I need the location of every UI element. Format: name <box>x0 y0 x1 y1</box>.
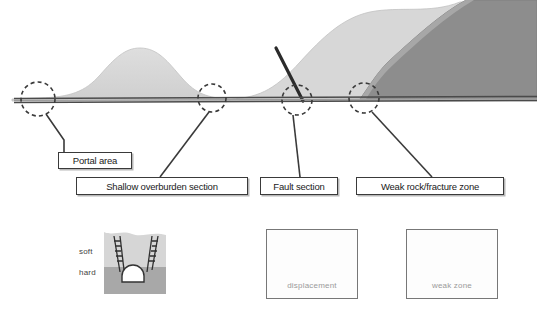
diagram-canvas: Portal area Shallow overburden section F… <box>0 0 537 317</box>
callout-label-portal-area[interactable]: Portal area <box>58 152 132 169</box>
panel-displacement: displacement <box>266 229 358 299</box>
panel-caption-weak-zone: weak zone <box>407 281 497 290</box>
panel-caption-displacement: displacement <box>267 281 357 290</box>
leader-line-shallow-overburden <box>160 112 209 177</box>
hill-left <box>12 48 230 101</box>
callout-label-weak-rock-fracture[interactable]: Weak rock/fracture zone <box>356 177 504 195</box>
panel-weak-zone: weak zone <box>406 229 498 299</box>
leader-line-fault-section <box>293 115 300 177</box>
panel-soft-hard <box>78 229 166 297</box>
callout-label-fault-section[interactable]: Fault section <box>260 177 338 195</box>
leader-line-portal-area <box>46 114 64 152</box>
callout-label-shallow-overburden[interactable]: Shallow overburden section <box>76 177 248 195</box>
leader-line-weak-rock-fracture <box>372 112 432 177</box>
